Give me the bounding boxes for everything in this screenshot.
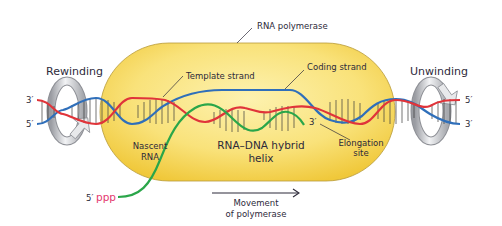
left-top-end-label: 3′ (26, 95, 33, 105)
movement-arrow-icon (212, 189, 299, 197)
rna-5-end-label: 5′ (86, 193, 93, 203)
rna-3-end-label: 3′ (309, 117, 316, 127)
coding-strand-label: Coding strand (307, 62, 367, 72)
movement-label-1: Movement (233, 198, 279, 208)
nascent-rna-label-2: RNA (141, 152, 159, 162)
left-bottom-end-label: 5′ (26, 119, 33, 129)
elongation-site-label-1: Elongation (338, 138, 383, 148)
ppp-label: ppp (96, 191, 116, 203)
hybrid-helix-label-1: RNA–DNA hybrid (217, 139, 304, 151)
elongation-site-label-2: site (353, 148, 368, 158)
rewinding-label: Rewinding (46, 65, 103, 78)
rna-polymerase-label: RNA polymerase (257, 21, 328, 31)
nascent-rna-label-1: Nascent (133, 141, 168, 151)
right-bottom-end-label: 3′ (465, 119, 472, 129)
hybrid-helix-label-2: helix (248, 152, 273, 164)
template-strand-label: Template strand (185, 71, 255, 81)
unwinding-label: Unwinding (410, 65, 468, 78)
transcription-diagram: RNA polymerase Rewinding Unwinding Templ… (0, 0, 502, 226)
right-top-end-label: 5′ (465, 95, 472, 105)
movement-label-2: of polymerase (226, 209, 287, 219)
